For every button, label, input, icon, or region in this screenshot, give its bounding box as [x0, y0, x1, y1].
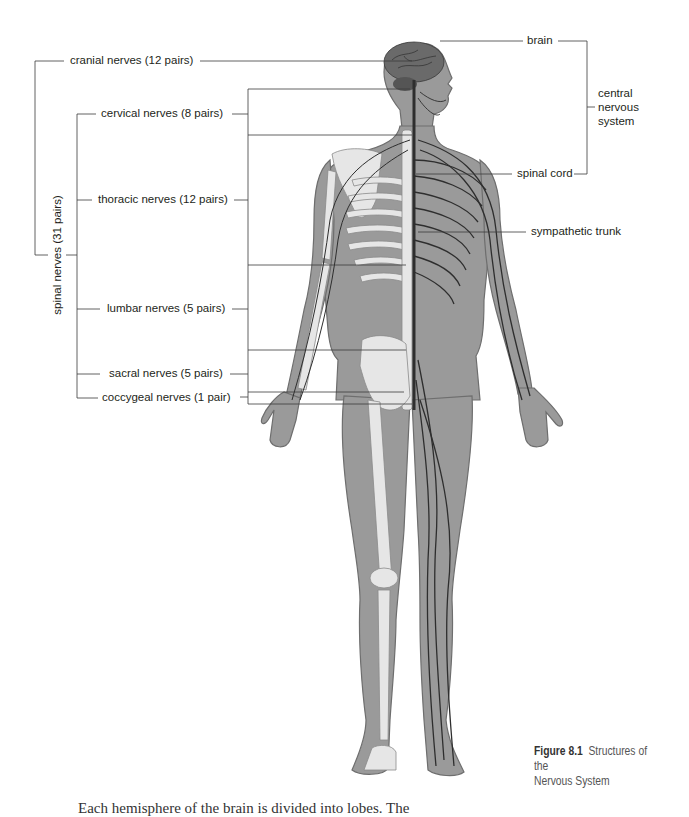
cns-line-3: system	[598, 114, 639, 128]
cns-line-1: central	[598, 86, 639, 100]
label-sacral-nerves: sacral nerves (5 pairs)	[109, 367, 223, 380]
label-lumbar-nerves: lumbar nerves (5 pairs)	[107, 302, 225, 315]
figure-caption: Figure 8.1 Structures of the Nervous Sys…	[534, 744, 663, 789]
label-cranial-nerves: cranial nerves (12 pairs)	[70, 54, 193, 67]
figure-title-line2: Nervous System	[534, 774, 610, 788]
label-thoracic-nerves: thoracic nerves (12 pairs)	[98, 193, 228, 206]
label-brain: brain	[527, 34, 553, 47]
label-sympathetic-trunk: sympathetic trunk	[531, 225, 621, 238]
label-coccygeal-nerves: coccygeal nerves (1 pair)	[102, 391, 230, 404]
figure-number: Figure 8.1	[534, 744, 583, 758]
label-cervical-nerves: cervical nerves (8 pairs)	[101, 107, 223, 120]
body-text-partial: Each hemisphere of the brain is divided …	[78, 800, 409, 817]
label-spinal-cord: spinal cord	[517, 167, 573, 180]
label-central-nervous-system: central nervous system	[598, 86, 639, 128]
label-spinal-nerves: spinal nerves (31 pairs)	[51, 195, 63, 315]
cns-line-2: nervous	[598, 100, 639, 114]
